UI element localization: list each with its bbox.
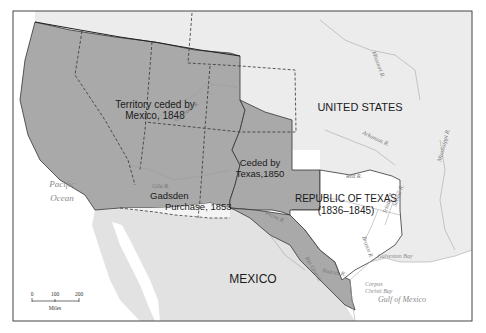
label-republic-texas-2: (1836–1845) — [318, 205, 375, 216]
label-gadsden-1: Gadsden — [150, 190, 189, 201]
label-mexican-cession-1: Territory ceded by — [115, 99, 194, 110]
historical-map: Territory ceded by Mexico, 1848 Ceded by… — [0, 0, 486, 333]
label-pacific-2: Ocean — [50, 193, 74, 203]
scale-tick-200: 200 — [75, 291, 84, 297]
label-gila-river: Gila R. — [152, 183, 169, 189]
label-texas-cession-2: Texas,1850 — [236, 168, 285, 179]
label-pacific-1: Pacific — [48, 179, 75, 189]
label-galveston-bay: Galveston Bay — [377, 253, 412, 259]
label-texas-cession-1: Ceded by — [240, 157, 281, 168]
scale-tick-100: 100 — [51, 291, 60, 297]
label-corpus-1: Corpus — [365, 281, 383, 287]
label-gadsden-2: Purchase, 1853 — [165, 201, 232, 212]
label-red-river: Red R. — [345, 173, 362, 179]
label-mexico: MEXICO — [229, 272, 276, 286]
label-united-states: UNITED STATES — [317, 101, 402, 113]
label-corpus-2: Christi Bay — [365, 288, 393, 294]
label-gulf-of-mexico: Gulf of Mexico — [378, 295, 426, 304]
scale-unit: Miles — [49, 305, 62, 311]
scale-tick-0: 0 — [31, 291, 34, 297]
label-republic-texas-1: REPUBLIC OF TEXAS — [295, 193, 397, 204]
